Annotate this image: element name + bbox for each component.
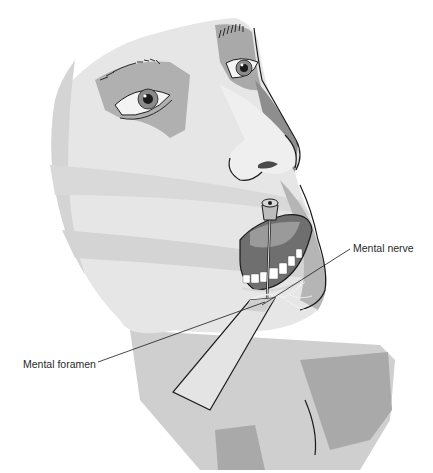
mental-nerve-block-illustration bbox=[0, 0, 433, 473]
head bbox=[50, 18, 326, 333]
neck bbox=[130, 330, 395, 470]
label-mental-foramen: Mental foramen bbox=[23, 358, 96, 370]
label-mental-nerve: Mental nerve bbox=[353, 242, 414, 254]
